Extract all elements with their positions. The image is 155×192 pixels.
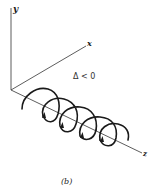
helix-loop-3	[80, 117, 117, 146]
condition-label: Δ < 0	[73, 73, 95, 81]
y-axis-label: y	[13, 5, 18, 14]
x-axis	[11, 46, 86, 90]
z-axis-label: z	[143, 150, 147, 157]
helix-diagram: y x z Δ < 0 (b)	[0, 0, 155, 192]
helix-curve	[22, 88, 129, 145]
figure-caption: (b)	[61, 178, 72, 186]
helix-loop-1	[22, 88, 59, 121]
diagram-canvas	[0, 0, 155, 192]
x-axis-label: x	[87, 39, 92, 47]
